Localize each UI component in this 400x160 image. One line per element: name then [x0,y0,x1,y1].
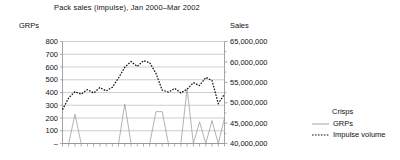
right-tick-label: 55,000,000 [230,78,268,87]
left-tick-label: 600 [45,63,58,72]
right-tick-label: 45,000,000 [230,119,268,128]
legend-item-grps[interactable]: GRPs [312,119,398,128]
left-tick-label: 300 [45,101,58,110]
left-axis-tick-labels: –100200300400500600700800 [45,37,58,148]
left-tick-label: 400 [45,88,58,97]
series-line-grps [63,89,225,144]
legend-label-grps: GRPs [333,119,353,128]
right-tick-label: 60,000,000 [230,58,268,67]
left-tick-label: 800 [45,37,58,46]
legend-item-impulse-volume[interactable]: Impulse volume [312,130,398,139]
legend-label-impulse-volume: Impulse volume [333,130,386,139]
right-tick-label: 50,000,000 [230,98,268,107]
legend-swatch-dashed-icon [312,131,329,139]
right-axis-ticks [225,42,228,144]
left-tick-label: 100 [45,126,58,135]
right-tick-label: 65,000,000 [230,37,268,46]
right-axis-tick-labels: 40,000,00045,000,00050,000,00055,000,000… [230,37,268,148]
chart-figure: Pack sales (impulse), Jan 2000–Mar 2002 … [0,0,400,160]
left-tick-label: – [54,139,59,148]
right-tick-label: 40,000,000 [230,139,268,148]
legend-title: Crisps [332,107,398,116]
series-line-impulse-volume [63,61,225,110]
x-axis-ticks [63,144,225,147]
left-tick-label: 700 [45,50,58,59]
legend-swatch-solid-icon [312,120,329,128]
left-tick-label: 200 [45,114,58,123]
grid-lines [63,42,225,144]
left-tick-label: 500 [45,75,58,84]
legend: Crisps GRPs Impulse volume [312,107,398,141]
